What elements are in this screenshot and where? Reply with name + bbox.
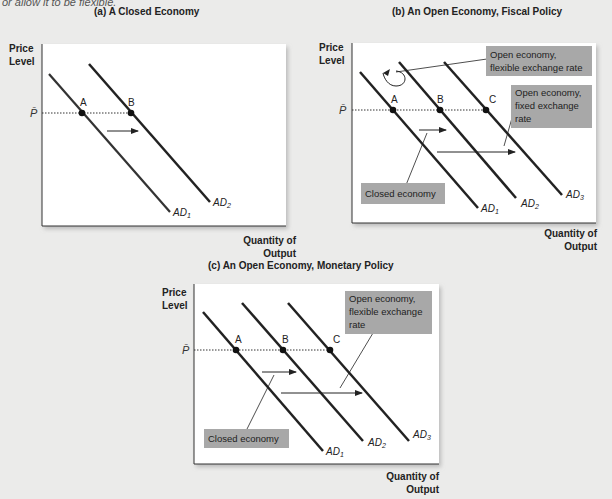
pbar-label: P̄ [339,104,347,116]
point-a [233,347,240,354]
panel-b: P̄ A B C Open economy, flexible exchange… [339,43,596,223]
diagram-canvas: P̄ A B AD1 AD2 P̄ A B C [0,0,612,499]
point-a [79,110,86,117]
point-a-label: A [391,94,398,105]
point-c [483,107,490,114]
point-b [128,110,135,117]
point-b [280,347,287,354]
point-a-label: A [80,97,87,108]
point-a-label: A [235,334,242,345]
callout-closed-economy-text: Closed economy [208,433,279,444]
pbar-label: P̄ [30,107,38,119]
point-b-label: B [437,94,444,105]
callout-closed-economy-text: Closed economy [365,188,436,199]
point-c-label: C [489,94,496,105]
pbar-label: P̄ [182,344,190,356]
point-c [327,347,334,354]
point-b-label: B [282,334,289,345]
point-b [437,107,444,114]
point-a [390,107,397,114]
panel-c: P̄ A B C Open economy, flexible exchange… [182,284,439,464]
panel-a: P̄ A B AD1 AD2 [30,44,286,226]
point-c-label: C [333,334,340,345]
point-b-label: B [128,97,135,108]
panel-a-plot-area [42,44,286,226]
